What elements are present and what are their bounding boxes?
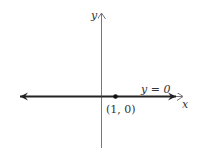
point-label: (1, 0) [106,103,136,116]
line-label: y = 0 [140,83,170,96]
coordinate-plane: y x y = 0 (1, 0) [0,0,199,153]
y-axis-label: y [90,9,98,22]
point-1-0 [113,94,118,99]
x-axis-label: x [182,98,189,111]
